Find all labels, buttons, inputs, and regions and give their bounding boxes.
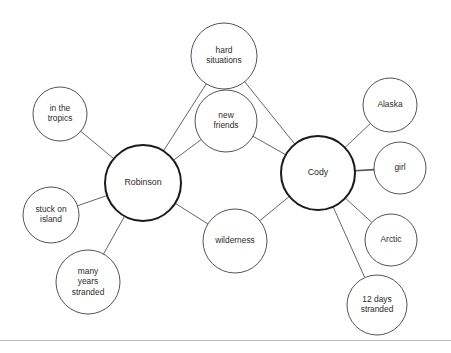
- node-label-stuck-on-island: island: [40, 214, 62, 224]
- connector-in-the-tropics-to-robinson: [81, 131, 114, 158]
- connector-wilderness-to-cody: [260, 196, 290, 220]
- node-wilderness[interactable]: wilderness: [203, 209, 267, 273]
- connector-new-friends-to-cody: [253, 136, 286, 155]
- node-label-hard-situations: situations: [206, 55, 241, 65]
- node-label-arctic: Arctic: [381, 234, 402, 244]
- node-label-many-years-stranded: years: [78, 276, 98, 286]
- node-new-friends[interactable]: newfriends: [195, 90, 257, 152]
- node-twelve-days-stranded[interactable]: 12 daysstranded: [347, 275, 407, 335]
- connector-stuck-on-island-to-robinson: [77, 195, 107, 205]
- node-label-stuck-on-island: stuck on: [35, 204, 67, 214]
- node-label-twelve-days-stranded: 12 days: [362, 294, 391, 304]
- node-label-robinson: Robinson: [124, 177, 161, 187]
- connector-arctic-to-cody: [345, 198, 372, 222]
- node-label-girl: girl: [394, 162, 405, 172]
- connector-alaska-to-cody: [345, 124, 370, 148]
- node-layer: hardsituationsnewfriendswildernessin the…: [23, 23, 426, 335]
- node-label-twelve-days-stranded: stranded: [361, 304, 394, 314]
- bottom-divider: [0, 340, 451, 341]
- connector-new-friends-to-robinson: [173, 140, 201, 161]
- node-cody[interactable]: Cody: [281, 136, 355, 210]
- node-label-new-friends: new: [218, 110, 234, 120]
- node-label-alaska: Alaska: [377, 99, 402, 109]
- node-in-the-tropics[interactable]: in thetropics: [33, 87, 87, 141]
- node-arctic[interactable]: Arctic: [365, 214, 417, 266]
- node-girl[interactable]: girl: [374, 142, 426, 194]
- node-label-cody: Cody: [308, 167, 329, 177]
- node-label-wilderness: wilderness: [214, 235, 255, 245]
- node-stuck-on-island[interactable]: stuck onisland: [23, 187, 79, 243]
- node-label-hard-situations: hard: [216, 45, 233, 55]
- node-label-many-years-stranded: stranded: [72, 287, 105, 297]
- bubble-map-diagram: hardsituationsnewfriendswildernessin the…: [0, 0, 451, 353]
- node-robinson[interactable]: Robinson: [105, 145, 181, 221]
- diagram-canvas: hardsituationsnewfriendswildernessin the…: [0, 0, 451, 353]
- node-alaska[interactable]: Alaska: [363, 78, 417, 132]
- connector-many-years-stranded-to-robinson: [104, 216, 125, 254]
- connector-twelve-days-stranded-to-cody: [333, 207, 365, 278]
- connector-girl-to-cody: [355, 170, 374, 171]
- node-label-in-the-tropics: in the: [50, 103, 71, 113]
- node-label-in-the-tropics: tropics: [48, 113, 73, 123]
- node-hard-situations[interactable]: hardsituations: [191, 23, 257, 89]
- connector-wilderness-to-robinson: [175, 203, 208, 224]
- node-many-years-stranded[interactable]: manyyearsstranded: [56, 250, 120, 314]
- node-label-new-friends: friends: [213, 120, 238, 130]
- node-label-many-years-stranded: many: [78, 266, 99, 276]
